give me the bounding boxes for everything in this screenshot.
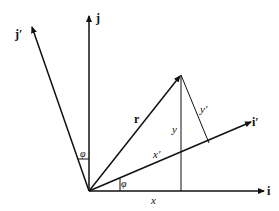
label-i: i <box>267 184 271 198</box>
label-phi-top: φ <box>80 148 86 159</box>
label-i-prime: i′ <box>252 115 259 129</box>
label-j-prime: j′ <box>14 27 22 41</box>
label-phi-bottom: φ <box>121 178 127 189</box>
label-y: y <box>171 123 177 135</box>
rotation-diagram: j j′ i i′ r x y x′ y′ φ φ <box>0 0 279 211</box>
r-vector <box>89 76 180 191</box>
label-y-prime: y′ <box>199 103 208 115</box>
label-x-prime: x′ <box>152 148 161 160</box>
label-x: x <box>150 194 156 206</box>
i-prime-axis <box>89 122 251 191</box>
label-r: r <box>134 112 140 126</box>
j-prime-axis <box>32 27 89 191</box>
label-j: j <box>95 11 100 25</box>
